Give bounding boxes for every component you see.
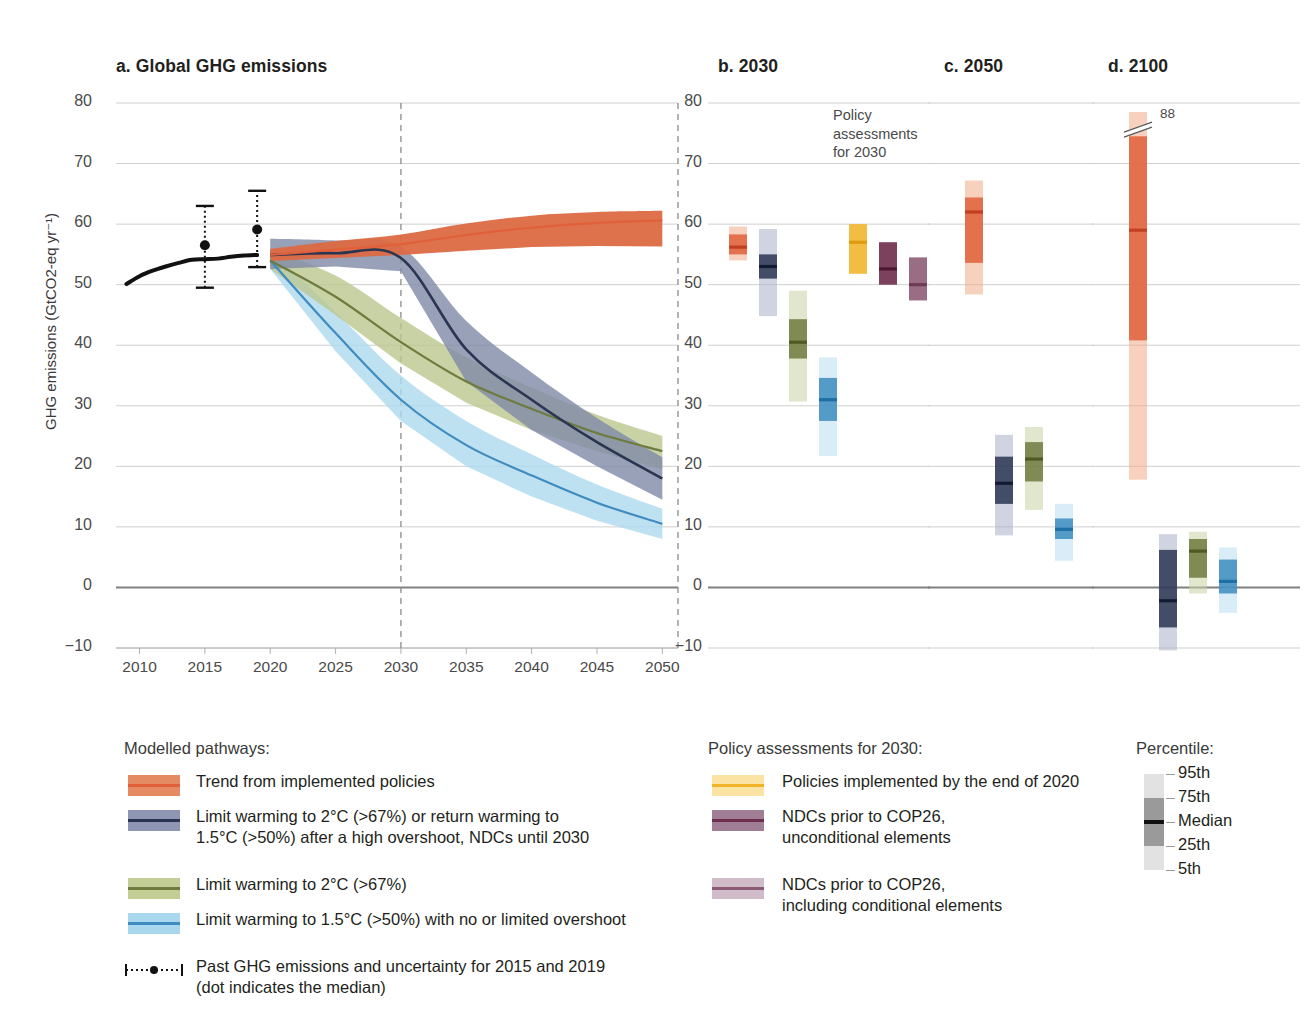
legend-past-emissions-marker: [124, 961, 186, 979]
percentile-label: 25th: [1178, 835, 1210, 854]
legend-text-line: Limit warming to 1.5°C (>50%) with no or…: [196, 909, 626, 930]
percentile-label: Median: [1178, 811, 1232, 830]
legend-swatch-ndc_uncond: [712, 810, 764, 831]
percentile-label: 95th: [1178, 763, 1210, 782]
panel-b-y-tick-label: 40: [662, 334, 702, 352]
panel-b-y-tick-label: 10: [662, 516, 702, 534]
axis-break-value: 88: [1160, 106, 1175, 121]
panel-b-y-tick-label: 20: [662, 455, 702, 473]
legend-label-overshoot: Limit warming to 2°C (>67%) or return wa…: [196, 806, 589, 849]
legend-label-ndc_uncond: NDCs prior to COP26,unconditional elemen…: [782, 806, 951, 849]
percentile-segment: [1144, 798, 1164, 822]
legend-text-line: Policies implemented by the end of 2020: [782, 771, 1079, 792]
legend-swatch-overshoot: [128, 810, 180, 831]
panel-b-y-tick-label: −10: [662, 637, 702, 655]
percentile-label: 75th: [1178, 787, 1210, 806]
panel-b-y-tick-label: 50: [662, 274, 702, 292]
percentile-label: 5th: [1178, 859, 1201, 878]
legend-text-line: including conditional elements: [782, 895, 1002, 916]
percentile-bar: [1144, 774, 1164, 870]
panel-b-y-tick-label: 60: [662, 213, 702, 231]
swatch-median: [712, 819, 764, 822]
legend-swatch-trend: [128, 775, 180, 796]
figure-root: a. Global GHG emissions GHG emissions (G…: [0, 0, 1315, 1010]
percentile-segment: [1144, 774, 1164, 798]
percentile-tick: [1166, 822, 1175, 823]
panels-bcd-plot: [0, 0, 1315, 720]
legend-swatch-c2: [128, 878, 180, 899]
swatch-median: [712, 784, 764, 787]
percentile-tick: [1166, 846, 1175, 847]
percentile-tick: [1166, 774, 1175, 775]
legend-label-trend: Trend from implemented policies: [196, 771, 435, 792]
percentile-median-line: [1144, 820, 1164, 824]
legend-text-line: 1.5°C (>50%) after a high overshoot, NDC…: [196, 827, 589, 848]
legend-swatch-pol2020: [712, 775, 764, 796]
swatch-median: [128, 922, 180, 925]
percentile-segment: [1144, 846, 1164, 870]
legend-text-line: Past GHG emissions and uncertainty for 2…: [196, 956, 605, 977]
legend-percentile-heading: Percentile:: [1136, 739, 1214, 758]
legend-text-line: unconditional elements: [782, 827, 951, 848]
panel-b-y-tick-label: 0: [662, 576, 702, 594]
legend-label-c15: Limit warming to 1.5°C (>50%) with no or…: [196, 909, 626, 930]
swatch-median: [128, 819, 180, 822]
swatch-median: [712, 887, 764, 890]
percentile-tick: [1166, 798, 1175, 799]
panel-b-y-tick-label: 70: [662, 153, 702, 171]
legend-text-line: Limit warming to 2°C (>67%): [196, 874, 407, 895]
legend-swatch-ndc_cond: [712, 878, 764, 899]
swatch-median: [128, 784, 180, 787]
panel-b-y-tick-label: 30: [662, 395, 702, 413]
legend-label-pol2020: Policies implemented by the end of 2020: [782, 771, 1079, 792]
panel-b-y-tick-label: 80: [662, 92, 702, 110]
legend-label-ndc_cond: NDCs prior to COP26,including conditiona…: [782, 874, 1002, 917]
legend-label-c2: Limit warming to 2°C (>67%): [196, 874, 407, 895]
legend-text-line: Limit warming to 2°C (>67%) or return wa…: [196, 806, 589, 827]
percentile-tick: [1166, 870, 1175, 871]
legend-text-line: (dot indicates the median): [196, 977, 605, 998]
legend-policy-heading: Policy assessments for 2030:: [708, 739, 923, 758]
legend-text-line: Trend from implemented policies: [196, 771, 435, 792]
percentile-segment: [1144, 822, 1164, 846]
legend-pathways-heading: Modelled pathways:: [124, 739, 270, 758]
legend-text-line: NDCs prior to COP26,: [782, 874, 1002, 895]
swatch-median: [128, 887, 180, 890]
legend-swatch-c15: [128, 913, 180, 934]
legend-label-past-emissions: Past GHG emissions and uncertainty for 2…: [196, 956, 605, 999]
legend-text-line: NDCs prior to COP26,: [782, 806, 951, 827]
